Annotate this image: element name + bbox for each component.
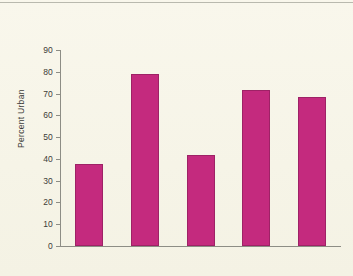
y-axis-tick [56,137,61,138]
x-axis-line [60,246,341,247]
y-axis-tick [56,94,61,95]
y-axis-tick-label: 80 [43,67,53,77]
bar-chart: Percent Urban 0102030405060708090AfricaA… [0,0,353,276]
y-axis-tick-label: 20 [43,197,53,207]
bar-europe [242,90,270,246]
y-axis-tick [56,224,61,225]
y-axis-tick-label: 0 [48,241,53,251]
y-axis-title: Percent Urban [16,89,26,148]
plot-area: 0102030405060708090AfricaAmericasAsiaEur… [61,50,340,246]
y-axis-tick [56,72,61,73]
y-axis-tick-label: 60 [43,110,53,120]
y-axis-tick-label: 50 [43,132,53,142]
y-axis-tick [56,159,61,160]
y-axis-tick-label: 10 [43,219,53,229]
y-axis-tick-label: 30 [43,176,53,186]
y-axis-tick [56,115,61,116]
y-axis-tick-label: 40 [43,154,53,164]
y-axis-tick-label: 90 [43,45,53,55]
y-axis-tick [56,246,61,247]
bar-oceania [298,97,326,246]
y-axis-tick [56,202,61,203]
bar-americas [131,74,159,246]
y-axis-tick [56,50,61,51]
bar-asia [187,155,215,246]
bar-africa [75,164,103,246]
chart-screenshot: Percent Urban 0102030405060708090AfricaA… [0,0,353,276]
y-axis-tick-label: 70 [43,89,53,99]
y-axis-tick [56,181,61,182]
